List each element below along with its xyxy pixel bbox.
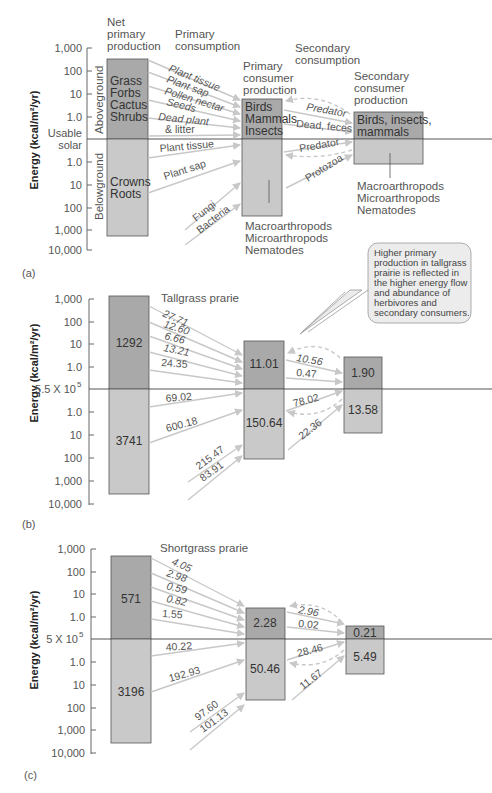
header-primary-consumption: consumption	[175, 40, 240, 52]
header-secondary-consumer-production: production	[354, 94, 408, 106]
consumer-label: mammals	[357, 125, 409, 139]
panel-title: Tallgrass prarie	[161, 292, 239, 304]
header-primary-consumption: Primary	[175, 28, 215, 40]
header-primary-consumer-production: Primary	[243, 60, 283, 72]
consumer-value: 0.21	[353, 626, 377, 640]
flow-label: Predator	[306, 100, 348, 119]
y-ticks	[91, 549, 96, 753]
tick-label: 100	[64, 316, 82, 328]
panel-b: Energy (kcal/m²/yr) 1,000 100 10 1.0 5.5…	[22, 292, 492, 530]
tick-label: 1,000	[54, 475, 82, 487]
tick-label: 10	[70, 338, 82, 350]
flow-value: 0.02	[298, 617, 320, 631]
y-ticks	[89, 299, 94, 504]
tick-label: 1.0	[67, 406, 82, 418]
panel-c: Energy (kcal/m²/yr) 1,000 100 10 1.0 5 X…	[24, 542, 492, 781]
tick-label: 1.0	[67, 361, 82, 373]
consumer-value: 1.90	[351, 366, 375, 380]
panel-title: Shortgrass prarie	[160, 542, 248, 554]
flow-value: 22.36	[296, 416, 324, 442]
tick-label: 100	[67, 702, 85, 714]
primary-consumer-below-box	[242, 139, 282, 216]
header-secondary-consumption: consumption	[295, 54, 360, 66]
panel-label: (b)	[22, 518, 35, 530]
flow-label: Plant tissue	[159, 137, 214, 154]
baseline-label: 5.5 X 10	[35, 383, 76, 395]
consumer-value: 150.64	[246, 416, 283, 430]
producer-value: 3196	[118, 685, 145, 699]
header-secondary-consumption: Secondary	[295, 42, 350, 54]
soil-fauna-label: Macroarthropods	[357, 180, 444, 192]
callout: Higher primary production in tallgrass p…	[300, 243, 471, 334]
tick-label: 100	[64, 202, 82, 214]
producer-label: Shrubs	[110, 110, 148, 124]
primary-flow-arrows	[149, 306, 242, 500]
header-net-primary: Net	[107, 16, 126, 28]
panel-a: Energy (kcal/m²/yr) 1,000 100 10 1.0 Usa…	[22, 16, 492, 279]
panel-label: (a)	[22, 267, 35, 279]
header-secondary-consumer-production: Secondary	[354, 70, 409, 82]
consumer-value: 13.58	[348, 403, 378, 417]
baseline-label: 5 X 10	[46, 633, 78, 645]
tick-label: 10	[73, 679, 85, 691]
energy-flow-figure: Energy (kcal/m²/yr) 1,000 100 10 1.0 Usa…	[0, 0, 492, 793]
tick-label: 1.0	[70, 611, 85, 623]
callout-text: secondary consumers.	[374, 307, 470, 318]
secondary-consumer-below-box	[354, 139, 423, 164]
tick-label: 1,000	[54, 224, 82, 236]
producer-value: 571	[121, 592, 141, 606]
tick-label: 10	[70, 88, 82, 100]
flow-value: 10.56	[296, 351, 324, 367]
tick-label: 10,000	[48, 498, 82, 510]
y-axis-label: Energy (kcal/m²/yr)	[28, 323, 40, 422]
tick-label: 1.0	[67, 111, 82, 123]
tick-label: 10	[70, 429, 82, 441]
header-primary-consumer-production: consumer	[243, 72, 294, 84]
producer-value: 3741	[116, 434, 143, 448]
tick-label: 1,000	[57, 543, 85, 555]
flow-value: 78.02	[292, 391, 321, 409]
flow-value: 24.35	[161, 356, 188, 370]
tick-label: 100	[64, 65, 82, 77]
header-primary-consumer-production: production	[243, 84, 297, 96]
consumer-value: 11.01	[249, 357, 278, 371]
consumer-value: 50.46	[250, 662, 280, 676]
soil-fauna-label: Microarthropods	[357, 192, 440, 204]
header-net-primary: primary	[107, 28, 146, 40]
baseline-exponent: 5	[79, 630, 84, 639]
flow-label: & litter	[165, 123, 195, 135]
flow-label: Plant sap	[162, 157, 207, 182]
tick-label: 10,000	[51, 747, 85, 759]
flow-value: 40.22	[165, 639, 192, 653]
header-secondary-consumer-production: consumer	[354, 82, 405, 94]
y-axis-label: Energy (kcal/m²/yr)	[28, 590, 40, 689]
baseline-label: Usable	[48, 127, 82, 139]
consumer-value: 5.49	[353, 650, 377, 664]
producer-label: Roots	[110, 187, 141, 201]
consumer-value: 2.28	[253, 616, 277, 630]
baseline-label: solar	[58, 139, 82, 151]
tick-label: 100	[64, 452, 82, 464]
tick-label: 1,000	[54, 293, 82, 305]
soil-fauna-label: Nematodes	[245, 244, 304, 256]
soil-fauna-label: Microarthropods	[245, 232, 328, 244]
flow-label: Dead, feces	[296, 117, 353, 134]
belowground-label: Belowground	[93, 153, 105, 220]
aboveground-label: Aboveground	[93, 66, 105, 134]
y-ticks	[87, 48, 92, 250]
tick-label: 100	[67, 566, 85, 578]
flow-label: Predator	[298, 135, 340, 154]
baseline-exponent: 5	[77, 380, 82, 389]
soil-fauna-label: Nematodes	[357, 204, 416, 216]
header-net-primary: production	[107, 40, 161, 52]
tick-label: 10	[73, 588, 85, 600]
tick-label: 1.0	[70, 656, 85, 668]
consumer-label: Insects	[245, 124, 283, 138]
flow-value: 28.46	[296, 641, 325, 659]
flow-value: 0.47	[296, 366, 318, 380]
flow-value: 69.02	[165, 390, 192, 404]
flow-value: 11.67	[297, 666, 325, 691]
tick-label: 10,000	[48, 244, 82, 256]
tick-label: 1.0	[67, 156, 82, 168]
flow-value: 1.55	[162, 607, 183, 620]
